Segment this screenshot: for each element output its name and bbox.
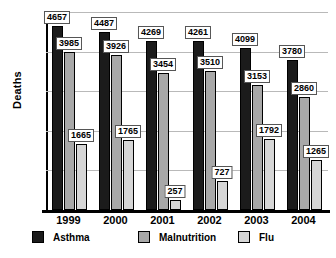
bar-value-label: 2860 (291, 82, 317, 95)
legend-label: Asthma (53, 232, 90, 243)
bar[interactable] (99, 32, 110, 210)
bar[interactable] (311, 160, 322, 210)
y-axis-line (46, 12, 48, 210)
legend-swatch-icon (32, 231, 44, 243)
legend-swatch-icon (238, 231, 250, 243)
bar-value-label: 1265 (303, 145, 329, 158)
bar-chart: Deaths 010002000300040005000 46573985166… (0, 0, 336, 258)
bar-value-label: 3985 (56, 37, 82, 50)
bar[interactable] (217, 181, 228, 210)
y-axis-title: Deaths (11, 55, 23, 125)
bar-value-label: 4099 (232, 33, 258, 46)
bar-group: 465739851665 (52, 12, 88, 210)
bar-value-label: 3510 (197, 56, 223, 69)
bar-group: 42693454257 (146, 12, 182, 210)
bar[interactable] (170, 200, 181, 210)
bar-value-label: 4657 (44, 11, 70, 24)
bar-value-label: 4269 (138, 26, 164, 39)
bar-value-label: 1765 (115, 125, 141, 138)
bar-value-label: 4487 (91, 17, 117, 30)
x-axis-line (42, 210, 330, 213)
plot-area: 010002000300040005000 465739851665448739… (46, 12, 328, 210)
bar-value-label: 1792 (256, 124, 282, 137)
legend: AsthmaMalnutritionFlu (0, 231, 336, 253)
bar[interactable] (52, 26, 63, 210)
bar-value-label: 257 (164, 185, 185, 198)
bar-value-label: 3454 (150, 58, 176, 71)
legend-label: Malnutrition (159, 232, 216, 243)
bar-value-label: 727 (211, 166, 232, 179)
bar-group: 378028601265 (287, 12, 323, 210)
bar-group: 42613510727 (193, 12, 229, 210)
bar[interactable] (123, 140, 134, 210)
legend-label: Flu (259, 232, 274, 243)
bar[interactable] (264, 139, 275, 210)
bar[interactable] (76, 144, 87, 210)
bar-value-label: 3153 (244, 70, 270, 83)
legend-swatch-icon (138, 231, 150, 243)
legend-item-malnutrition[interactable]: Malnutrition (138, 231, 216, 243)
bar-group: 409931531792 (240, 12, 276, 210)
bar-group: 448739261765 (99, 12, 135, 210)
bar-value-label: 3780 (279, 45, 305, 58)
bar[interactable] (252, 85, 263, 210)
bar-value-label: 1665 (68, 129, 94, 142)
legend-item-flu[interactable]: Flu (238, 231, 274, 243)
bar[interactable] (205, 71, 216, 210)
bar-value-label: 4261 (185, 26, 211, 39)
x-tick-label: 2004 (274, 214, 334, 226)
legend-item-asthma[interactable]: Asthma (32, 231, 90, 243)
bar-value-label: 3926 (103, 40, 129, 53)
